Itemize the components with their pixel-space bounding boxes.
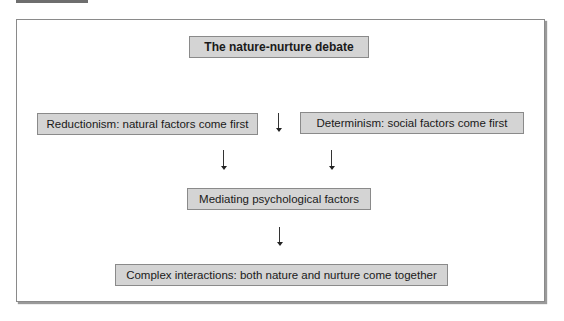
diagram-frame [16,19,545,302]
title-box: The nature-nurture debate [189,36,369,58]
arrow-center-icon [278,113,279,129]
complex-interactions-box: Complex interactions: both nature and nu… [115,264,448,286]
reductionism-box: Reductionism: natural factors come first [37,113,258,135]
arrow-left-icon [223,150,224,167]
header-tab-bar [16,0,88,3]
arrow-bottom-icon [279,227,280,243]
arrow-right-icon [331,150,332,167]
mediating-box: Mediating psychological factors [187,188,371,210]
determinism-box: Determinism: social factors come first [300,112,524,134]
